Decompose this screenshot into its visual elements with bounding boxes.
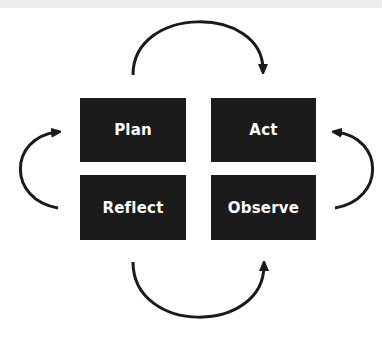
node-label: Plan xyxy=(114,121,152,139)
cycle-arrows xyxy=(0,0,382,339)
node-label: Reflect xyxy=(102,199,163,217)
node-label: Observe xyxy=(228,199,299,217)
arrow-reflect-to-observe xyxy=(133,262,264,317)
arrow-left-loop xyxy=(20,132,58,208)
arrow-plan-to-act xyxy=(133,22,263,75)
node-act: Act xyxy=(211,98,316,162)
node-label: Act xyxy=(249,121,277,139)
node-plan: Plan xyxy=(80,98,186,162)
node-reflect: Reflect xyxy=(80,175,186,240)
arrow-right-loop xyxy=(335,132,373,208)
node-observe: Observe xyxy=(211,175,316,240)
